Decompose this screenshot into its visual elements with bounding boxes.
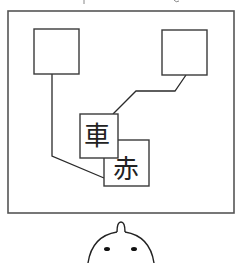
card-front-label: 車: [84, 121, 110, 151]
card-front: 車: [80, 114, 118, 158]
right-eye-icon: [131, 247, 137, 251]
left-eye-icon: [104, 247, 110, 251]
diagram-canvas: 赤 車: [0, 0, 242, 267]
hair-tuft-icon: [117, 222, 125, 232]
head-outline: [88, 232, 154, 263]
empty-box-right: [162, 30, 207, 75]
head-figure: [88, 222, 154, 263]
empty-box-left: [34, 29, 79, 74]
connector-right: [113, 75, 186, 114]
cropped-caption-fragment: [84, 0, 179, 4]
